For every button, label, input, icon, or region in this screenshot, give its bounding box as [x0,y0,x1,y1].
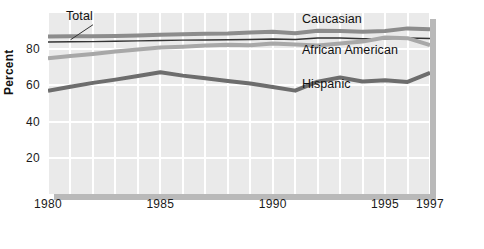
y-axis-tick-label: 20 [26,152,40,164]
y-axis-tick-label: 80 [26,43,40,55]
series-lines [48,13,430,194]
x-axis-tick-label: 1990 [259,198,287,210]
series-line-hispanic [48,72,430,91]
series-line-caucasian [48,28,430,36]
y-axis-labels: 20406080 [0,13,46,194]
y-axis-tick-label: 60 [26,79,40,91]
x-axis-tick-label: 1985 [146,198,174,210]
series-label-african-american: African American [302,44,398,57]
x-axis-labels: 19801985199019951997 [0,198,484,220]
x-axis-tick-label: 1995 [371,198,399,210]
series-label-total: Total [66,10,93,23]
plot-area [48,13,430,194]
x-axis-tick-label: 1980 [34,198,62,210]
series-label-caucasian: Caucasian [302,13,362,26]
x-axis-tick-label: 1997 [416,198,444,210]
series-label-hispanic: Hispanic [302,78,351,91]
line-chart: Percent 20406080 19801985199019951997 Ca… [0,0,484,249]
y-axis-tick-label: 40 [26,116,40,128]
